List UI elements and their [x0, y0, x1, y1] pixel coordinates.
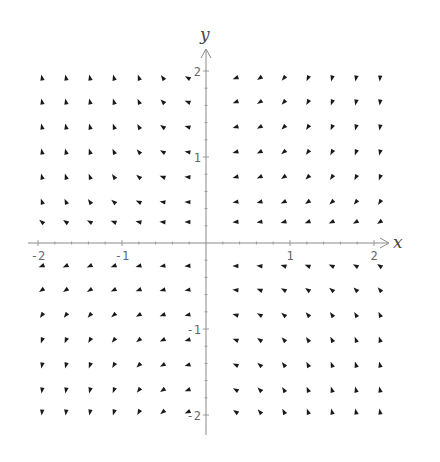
vector-arrow-icon: [89, 174, 93, 180]
vector-arrow-icon: [88, 99, 92, 105]
vector-arrow-icon: [113, 124, 117, 130]
vector-arrow-icon: [160, 337, 166, 342]
vector-arrow-icon: [331, 362, 335, 368]
vector-arrow-icon: [137, 124, 142, 130]
vector-arrow-icon: [257, 124, 263, 129]
vector-arrow-icon: [330, 337, 335, 343]
vector-arrow-icon: [355, 149, 359, 155]
vector-arrow-icon: [136, 201, 142, 206]
x-tick-label: -2: [31, 249, 45, 263]
vector-arrow-icon: [233, 75, 239, 79]
vector-arrow-icon: [306, 99, 311, 105]
vector-arrow-icon: [40, 99, 44, 105]
vector-arrow-icon: [282, 409, 287, 415]
vector-arrow-icon: [113, 149, 118, 155]
vector-arrow-icon: [64, 387, 68, 393]
vector-arrow-icon: [331, 387, 335, 393]
vector-arrow-icon: [136, 312, 142, 317]
vector-arrow-icon: [378, 409, 382, 415]
vector-arrow-icon: [89, 149, 93, 155]
vector-arrow-icon: [160, 200, 166, 204]
vector-arrow-icon: [307, 387, 311, 393]
vector-arrow-icon: [354, 174, 359, 180]
vector-arrow-icon: [64, 312, 69, 318]
vector-arrow-icon: [160, 287, 166, 291]
vector-arrow-icon: [112, 362, 117, 368]
vector-arrow-icon: [137, 149, 143, 155]
vector-arrow-icon: [136, 263, 142, 267]
vector-arrow-icon: [378, 287, 384, 293]
vector-arrow-icon: [136, 287, 142, 291]
vector-arrow-icon: [64, 99, 68, 105]
vector-arrow-icon: [258, 388, 264, 394]
vector-arrow-icon: [257, 199, 263, 203]
vector-arrow-icon: [65, 362, 69, 368]
vector-arrow-icon: [306, 124, 311, 130]
vector-arrow-icon: [306, 174, 312, 180]
vector-arrow-icon: [232, 288, 238, 292]
vector-arrow-icon: [306, 337, 311, 343]
vector-arrow-icon: [354, 312, 359, 318]
vector-arrow-icon: [257, 75, 263, 80]
vector-arrow-icon: [305, 199, 311, 204]
vector-arrow-icon: [160, 409, 166, 415]
vector-arrow-icon: [63, 263, 69, 268]
vector-arrow-icon: [282, 75, 288, 81]
vector-arrow-icon: [185, 337, 191, 341]
vector-arrow-icon: [40, 409, 44, 415]
vector-arrow-icon: [282, 362, 287, 368]
vector-arrow-icon: [354, 409, 358, 415]
y-axis-label: y: [199, 24, 210, 44]
vector-arrow-icon: [282, 337, 288, 343]
vector-arrow-icon: [329, 219, 335, 224]
y-tick-label: 1: [194, 151, 201, 165]
vector-arrow-icon: [378, 199, 383, 205]
vector-arrow-icon: [185, 101, 191, 105]
vector-arrow-icon: [41, 337, 45, 343]
vector-arrow-icon: [307, 409, 311, 415]
vector-arrow-icon: [138, 99, 143, 105]
vector-arrow-icon: [305, 288, 311, 293]
vector-arrow-icon: [112, 337, 118, 343]
vector-arrow-icon: [161, 100, 167, 106]
vector-arrow-icon: [185, 150, 191, 154]
vector-arrow-icon: [88, 199, 93, 205]
vector-arrow-icon: [233, 124, 239, 128]
vector-arrow-icon: [233, 199, 239, 203]
vector-arrow-icon: [185, 312, 191, 316]
vector-arrow-icon: [331, 99, 335, 105]
vector-arrow-icon: [41, 199, 45, 205]
vector-arrow-icon: [40, 174, 44, 180]
vector-arrow-icon: [64, 149, 68, 155]
vector-arrow-icon: [282, 387, 287, 393]
vector-arrow-icon: [233, 410, 239, 415]
vector-arrow-icon: [258, 409, 264, 415]
vector-arrow-icon: [111, 287, 117, 292]
vector-arrow-icon: [161, 75, 166, 81]
vector-arrow-icon: [257, 174, 263, 178]
vector-arrow-icon: [137, 362, 143, 368]
vector-arrow-icon: [232, 264, 238, 268]
vector-arrow-icon: [281, 199, 287, 204]
vector-arrow-icon: [87, 287, 93, 292]
vector-arrow-icon: [185, 287, 191, 291]
vector-arrow-icon: [136, 337, 142, 342]
vector-arrow-icon: [87, 263, 93, 268]
vector-arrow-icon: [137, 409, 142, 415]
vector-arrow-icon: [257, 363, 263, 369]
x-axis-label: x: [393, 232, 403, 252]
x-tick-label: 1: [286, 249, 293, 263]
vector-arrow-icon: [65, 174, 69, 180]
vector-arrow-icon: [331, 124, 335, 130]
vector-arrow-icon: [159, 220, 165, 224]
vector-arrow-icon: [331, 409, 335, 415]
vector-arrow-icon: [113, 75, 117, 81]
vector-arrow-icon: [89, 124, 93, 130]
vector-arrow-icon: [257, 289, 263, 293]
vector-arrow-icon: [89, 387, 93, 393]
vector-arrow-icon: [64, 75, 68, 81]
vector-arrow-icon: [65, 337, 69, 343]
vector-arrow-icon: [111, 263, 117, 267]
vector-arrow-icon: [184, 264, 190, 268]
vector-arrow-icon: [184, 200, 190, 204]
